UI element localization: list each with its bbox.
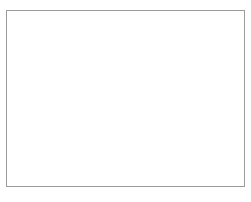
mesh-plot bbox=[7, 11, 244, 186]
figure-frame bbox=[6, 10, 245, 187]
